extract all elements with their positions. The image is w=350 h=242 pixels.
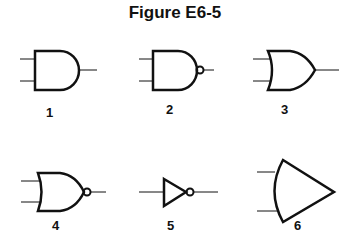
gate-1-body <box>35 51 79 90</box>
gate-2-nand <box>139 51 214 90</box>
gate-5-label: 5 <box>167 218 174 233</box>
gate-6 <box>257 160 334 222</box>
gate-5-not <box>139 179 218 206</box>
gate-3-label: 3 <box>281 102 288 117</box>
gate-4-label: 4 <box>52 218 59 233</box>
gate-1-label: 1 <box>46 105 53 120</box>
gate-4-nor <box>21 173 106 211</box>
gate-2-label: 2 <box>166 102 173 117</box>
gate-6-label: 6 <box>294 218 301 233</box>
gate-diagram <box>0 0 350 242</box>
gate-3-or <box>253 51 339 90</box>
gate-1-and <box>20 51 97 90</box>
